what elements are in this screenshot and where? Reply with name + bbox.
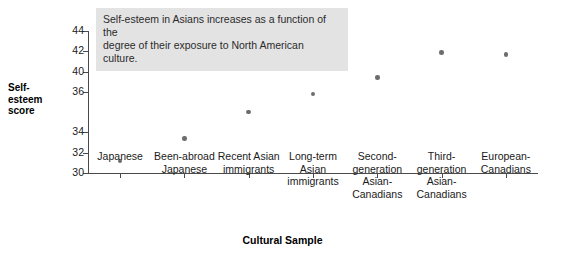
x-axis-category-label-line: Long-term xyxy=(281,150,345,163)
data-point xyxy=(311,92,316,97)
x-axis-category-label-line: Second- xyxy=(345,150,409,163)
y-axis-title-line: esteem xyxy=(8,94,66,106)
y-tick-label: 34 xyxy=(72,125,84,137)
x-axis-category-label: Japanese xyxy=(88,150,152,163)
x-axis-category-label-line: Canadians xyxy=(409,188,473,201)
y-tick-label: 40 xyxy=(72,65,84,77)
x-axis-category-label-line: Canadians xyxy=(474,163,538,176)
data-point xyxy=(375,75,380,80)
x-axis-category-label-line: Japanese xyxy=(152,163,216,176)
x-axis-category-label-line: Been-abroad xyxy=(152,150,216,163)
y-axis-title: Self- esteem score xyxy=(8,82,66,117)
x-axis-category-label: Recent Asianimmigrants xyxy=(217,150,281,175)
x-tick-mark xyxy=(120,173,121,178)
y-axis-title-line: score xyxy=(8,105,66,117)
self-esteem-scatter-figure: Self- esteem score Self-esteem in Asians… xyxy=(0,0,565,260)
x-axis-category-label-line: European- xyxy=(474,150,538,163)
data-point xyxy=(246,110,251,115)
y-tick-label: 36 xyxy=(72,85,84,97)
x-axis-category-label: European-Canadians xyxy=(474,150,538,175)
x-axis-title: Cultural Sample xyxy=(0,234,565,246)
x-axis-category-label-line: Japanese xyxy=(88,150,152,163)
x-axis-category-label-line: Asian- xyxy=(409,175,473,188)
data-point xyxy=(504,52,509,57)
y-axis-title-line: Self- xyxy=(8,82,66,94)
y-tick-label: 42 xyxy=(72,44,84,56)
x-axis-category-label-line: generation xyxy=(345,163,409,176)
data-point xyxy=(439,50,444,55)
x-axis-category-label: Third-generationAsian-Canadians xyxy=(409,150,473,200)
x-axis-category-label-line: Third- xyxy=(409,150,473,163)
x-axis-category-label-line: generation xyxy=(409,163,473,176)
x-axis-category-label: Long-termAsianimmigrants xyxy=(281,150,345,188)
x-axis-category-label-line: immigrants xyxy=(281,175,345,188)
y-tick-label: 32 xyxy=(72,146,84,158)
x-axis-category-label-line: Asian xyxy=(281,163,345,176)
x-axis-category-label-line: immigrants xyxy=(217,163,281,176)
x-axis-category-label-line: Recent Asian xyxy=(217,150,281,163)
x-axis-category-label: Been-abroadJapanese xyxy=(152,150,216,175)
x-axis-category-label-line: Canadians xyxy=(345,188,409,201)
y-tick-label: 30 xyxy=(72,166,84,178)
y-tick-label: 44 xyxy=(72,24,84,36)
data-point xyxy=(182,136,187,141)
x-axis-category-label: Second-generationAsian-Canadians xyxy=(345,150,409,200)
x-axis-category-label-line: Asian- xyxy=(345,175,409,188)
